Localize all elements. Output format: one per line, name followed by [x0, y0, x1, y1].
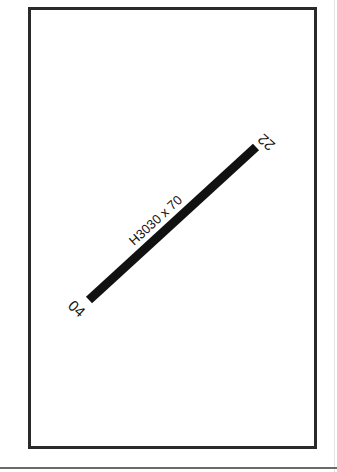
runway-end-04-label: 04: [65, 297, 89, 321]
runway-diagram: H3030 x 70 04 22: [0, 0, 337, 472]
runway-04-22: [89, 147, 256, 300]
